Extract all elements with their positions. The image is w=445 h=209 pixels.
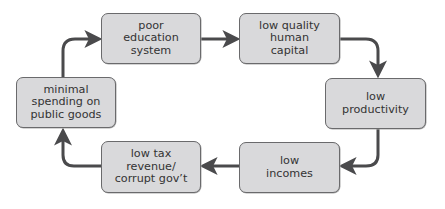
node-low-incomes: low incomes bbox=[239, 142, 340, 193]
node-label: low quality human capital bbox=[259, 20, 320, 58]
node-low-human-capital: low quality human capital bbox=[239, 13, 340, 64]
node-low-productivity: low productivity bbox=[325, 78, 426, 129]
arrow-spending-to-education bbox=[63, 39, 94, 77]
node-label: low productivity bbox=[342, 91, 409, 116]
arrow-capital-to-productivity bbox=[340, 39, 378, 70]
arrow-tax-to-spending bbox=[63, 136, 101, 166]
arrow-productivity-to-incomes bbox=[347, 129, 378, 166]
node-label: minimal spending on public goods bbox=[31, 84, 102, 122]
node-low-tax: low tax revenue/ corrupt gov’t bbox=[101, 141, 201, 193]
node-minimal-spending: minimal spending on public goods bbox=[16, 77, 116, 128]
vicious-cycle-diagram: poor education system low quality human … bbox=[0, 0, 445, 209]
node-label: low incomes bbox=[266, 155, 313, 180]
node-label: poor education system bbox=[123, 20, 179, 58]
node-label: low tax revenue/ corrupt gov’t bbox=[115, 148, 188, 186]
node-poor-education: poor education system bbox=[101, 13, 201, 64]
